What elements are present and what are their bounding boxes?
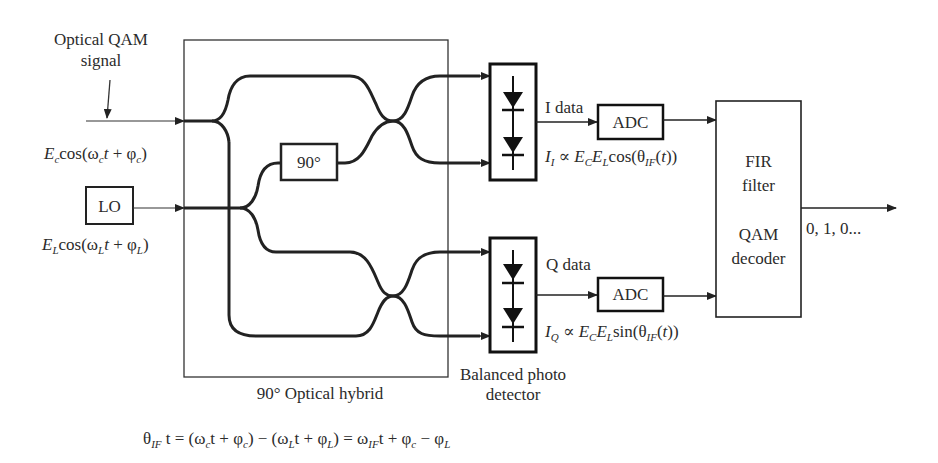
q-current-expression: IQ ∝ ECELsin(θIF(t))	[545, 323, 679, 340]
lo-label: LO	[86, 198, 133, 215]
signal-label: Optical QAM signal	[26, 29, 176, 71]
signal-label-line2: signal	[26, 50, 176, 71]
lo-waveguide-upper	[240, 163, 281, 208]
decoder-line-fir: FIR	[716, 150, 801, 174]
signal-field-expression: Eccos(ωct + φc)	[44, 145, 147, 162]
decoder-line-decoder: decoder	[716, 247, 801, 271]
decoder-label: FIR filter QAM decoder	[716, 150, 801, 271]
signal-waveguide-upper	[184, 76, 393, 121]
lower-coupler-out-bottom	[393, 296, 480, 336]
detector-caption-line1: Balanced photo	[448, 365, 578, 385]
phase-equation: θIF t = (ωct + φc) − (ωLt + φL) = ωIFt +…	[143, 430, 450, 447]
lo-field-expression: ELcos(ωLt + φL)	[42, 236, 149, 253]
hybrid-waveguides	[184, 76, 480, 336]
signal-label-arrow	[107, 80, 110, 118]
detector-caption-line2: detector	[448, 385, 578, 405]
decoder-line-filter: filter	[716, 174, 801, 198]
balanced-photodetector-i	[490, 64, 536, 180]
balanced-photodetector-q	[490, 238, 536, 352]
detector-input-arrows	[470, 76, 490, 336]
detector-caption: Balanced photo detector	[448, 365, 578, 405]
lower-coupler-out-top	[393, 252, 480, 296]
upper-coupler-out-top	[393, 76, 480, 121]
output-bits-label: 0, 1, 0...	[806, 220, 861, 237]
upper-coupler-out-bottom	[393, 121, 480, 163]
decoder-line-qam: QAM	[716, 223, 801, 247]
i-current-expression: II ∝ ECELcos(θIF(t))	[545, 148, 677, 165]
signal-waveguide-lower	[212, 121, 229, 142]
phase-shifter-label: 90°	[281, 154, 337, 171]
signal-label-line1: Optical QAM	[26, 29, 176, 50]
i-data-label: I data	[545, 99, 583, 116]
hybrid-caption: 90° Optical hybrid	[220, 385, 420, 402]
signal-waveguide-bottom	[229, 296, 393, 336]
phase-shifter-output	[337, 121, 393, 163]
adc-q-label: ADC	[598, 286, 663, 303]
lo-waveguide-lower	[240, 208, 393, 296]
adc-i-label: ADC	[598, 114, 663, 131]
q-data-label: Q data	[546, 256, 591, 273]
